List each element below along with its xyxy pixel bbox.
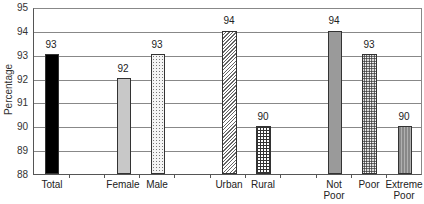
value-label-urban: 94: [214, 15, 244, 26]
x-tick: [139, 175, 140, 178]
y-tick-91: 91: [6, 97, 28, 108]
y-tick-94: 94: [6, 26, 28, 37]
y-axis-label: Percentage: [3, 60, 14, 120]
bar-not-poor: [328, 31, 342, 174]
value-label-extreme-poor: 90: [389, 111, 419, 122]
y-tick-92: 92: [6, 74, 28, 85]
y-tick-89: 89: [6, 145, 28, 156]
bar-female: [117, 78, 131, 174]
x-label-rural: Rural: [238, 179, 288, 190]
y-tick-93: 93: [6, 50, 28, 61]
y-tick-88: 88: [6, 169, 28, 180]
x-label-total: Total: [27, 179, 77, 190]
x-tick: [316, 175, 317, 178]
plot-area: [33, 8, 422, 175]
value-label-male: 93: [142, 39, 172, 50]
bar-chart: Percentage 95 94 93 92 91 90 89 88 93 92…: [0, 0, 424, 204]
x-tick: [210, 175, 211, 178]
value-label-poor: 93: [354, 39, 384, 50]
bar-male: [151, 54, 165, 174]
bar-rural: [256, 126, 271, 174]
bar-poor: [362, 54, 377, 174]
x-tick: [174, 175, 175, 178]
value-label-rural: 90: [248, 111, 278, 122]
bar-extreme-poor: [398, 126, 412, 174]
value-label-total: 93: [36, 39, 66, 50]
x-tick: [245, 175, 246, 178]
x-tick: [386, 175, 387, 178]
value-label-female: 92: [108, 63, 138, 74]
x-tick: [69, 175, 70, 178]
value-label-not-poor: 94: [319, 15, 349, 26]
x-tick: [351, 175, 352, 178]
x-label-male: Male: [132, 179, 182, 190]
y-tick-90: 90: [6, 121, 28, 132]
y-tick-95: 95: [6, 2, 28, 13]
x-tick: [280, 175, 281, 178]
x-label-extreme-poor: ExtremePoor: [379, 179, 424, 201]
bar-total: [45, 54, 59, 174]
bar-urban: [222, 31, 237, 174]
x-tick: [104, 175, 105, 178]
